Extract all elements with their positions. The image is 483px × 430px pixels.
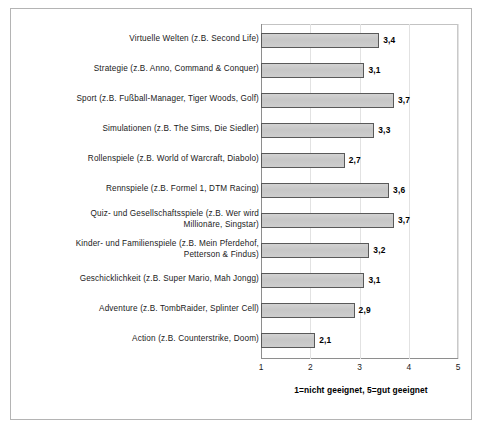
category-label-line: Strategie (z.B. Anno, Command & Conquer) [29,64,259,75]
bar [261,273,364,288]
category-label-line: Geschicklichkeit (z.B. Super Mario, Mah … [29,274,259,285]
category-label-line: Action (z.B. Counterstrike, Doom) [29,334,259,345]
x-tick-label: 2 [295,362,325,372]
category-label: Rennspiele (z.B. Formel 1, DTM Racing) [29,184,259,195]
bar-value-label: 3,6 [393,185,405,195]
bar-value-label: 3,1 [368,275,380,285]
category-label-line: Sport (z.B. Fußball-Manager, Tiger Woods… [29,94,259,105]
bar [261,303,355,318]
category-label: Action (z.B. Counterstrike, Doom) [29,334,259,345]
bar [261,93,394,108]
category-label-line: Simulationen (z.B. The Sims, Die Siedler… [29,124,259,135]
bar [261,333,315,348]
x-axis-caption: 1=nicht geeignet, 5=gut geeignet [261,385,461,395]
bar-value-label: 2,9 [359,305,371,315]
category-label-line: Adventure (z.B. TombRaider, Splinter Cel… [29,304,259,315]
category-label-line: Virtuelle Welten (z.B. Second Life) [29,34,259,45]
bar-value-label: 3,3 [378,125,390,135]
category-label: Sport (z.B. Fußball-Manager, Tiger Woods… [29,94,259,105]
bar-row: Sport (z.B. Fußball-Manager, Tiger Woods… [0,85,483,115]
bar-row: Kinder- und Familienspiele (z.B. Mein Pf… [0,235,483,265]
bar [261,63,364,78]
bar [261,213,394,228]
category-label-line: Kinder- und Familienspiele (z.B. Mein Pf… [29,239,259,250]
bar [261,243,369,258]
bar-value-label: 3,1 [368,65,380,75]
x-tick-label: 1 [246,362,276,372]
bar-value-label: 3,7 [398,215,410,225]
bar-row: Simulationen (z.B. The Sims, Die Siedler… [0,115,483,145]
category-label: Strategie (z.B. Anno, Command & Conquer) [29,64,259,75]
bar-row: Quiz- und Gesellschaftsspiele (z.B. Wer … [0,205,483,235]
bar-value-label: 2,7 [349,155,361,165]
category-label: Rollenspiele (z.B. World of Warcraft, Di… [29,154,259,165]
bar [261,123,374,138]
category-label-line: Millionäre, Singstar) [29,220,259,231]
x-tick-label: 3 [345,362,375,372]
category-label-line: Rennspiele (z.B. Formel 1, DTM Racing) [29,184,259,195]
bar [261,33,379,48]
bar-row: Virtuelle Welten (z.B. Second Life)3,4 [0,25,483,55]
bar-row: Rollenspiele (z.B. World of Warcraft, Di… [0,145,483,175]
category-label: Quiz- und Gesellschaftsspiele (z.B. Wer … [29,209,259,230]
category-label: Virtuelle Welten (z.B. Second Life) [29,34,259,45]
horizontal-bar-chart: Virtuelle Welten (z.B. Second Life)3,4St… [0,0,483,430]
bar-value-label: 3,2 [373,245,385,255]
x-tick-label: 5 [443,362,473,372]
bar-row: Strategie (z.B. Anno, Command & Conquer)… [0,55,483,85]
x-tick-label: 4 [394,362,424,372]
bar-row: Action (z.B. Counterstrike, Doom)2,1 [0,325,483,355]
bar-value-label: 3,4 [383,35,395,45]
bar [261,183,389,198]
category-label-line: Quiz- und Gesellschaftsspiele (z.B. Wer … [29,209,259,220]
category-label: Geschicklichkeit (z.B. Super Mario, Mah … [29,274,259,285]
category-label: Adventure (z.B. TombRaider, Splinter Cel… [29,304,259,315]
category-label: Simulationen (z.B. The Sims, Die Siedler… [29,124,259,135]
category-label-line: Rollenspiele (z.B. World of Warcraft, Di… [29,154,259,165]
bar-row: Adventure (z.B. TombRaider, Splinter Cel… [0,295,483,325]
bar-row: Geschicklichkeit (z.B. Super Mario, Mah … [0,265,483,295]
bar-value-label: 3,7 [398,95,410,105]
category-label-line: Petterson & Findus) [29,250,259,261]
bar-row: Rennspiele (z.B. Formel 1, DTM Racing)3,… [0,175,483,205]
category-label: Kinder- und Familienspiele (z.B. Mein Pf… [29,239,259,260]
bar [261,153,345,168]
bar-value-label: 2,1 [319,335,331,345]
